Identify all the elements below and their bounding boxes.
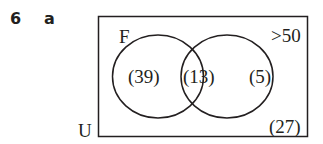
- region-only-over50: (5): [249, 66, 271, 88]
- venn-diagram: F >50 (39) (13) (5) (27) U: [0, 0, 323, 144]
- set-f-label: F: [119, 26, 130, 47]
- region-only-f: (39): [128, 66, 160, 88]
- region-neither: (27): [269, 116, 301, 138]
- set-over50-label: >50: [271, 25, 301, 46]
- region-both: (13): [183, 66, 215, 88]
- universe-label: U: [78, 120, 92, 141]
